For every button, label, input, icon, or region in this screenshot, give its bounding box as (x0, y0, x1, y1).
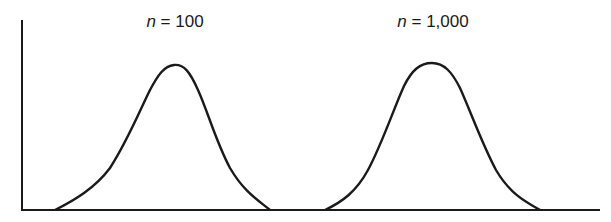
label-equals: = (156, 12, 175, 31)
chart (0, 0, 611, 222)
label-n-1000: n = 1,000 (397, 12, 468, 32)
label-value: 1,000 (426, 12, 469, 31)
label-equals: = (407, 12, 426, 31)
label-value: 100 (175, 12, 203, 31)
curve-n-1000 (325, 63, 540, 210)
label-n-100: n = 100 (146, 12, 203, 32)
curve-n-100 (55, 65, 270, 210)
